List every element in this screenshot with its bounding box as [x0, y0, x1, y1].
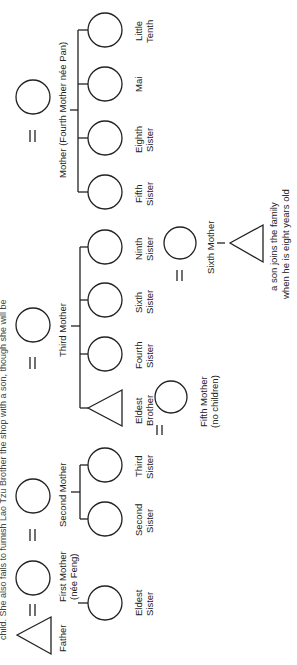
- marriage-symbol: [30, 130, 35, 142]
- sixth-sister-label: Sixth: [133, 292, 144, 313]
- marriage-symbol: [30, 357, 35, 369]
- little-tenth-label: Little: [133, 21, 144, 41]
- sibling-bracket: [71, 465, 88, 519]
- eighth-sister-circle-icon: [88, 121, 122, 155]
- marriage-symbol: [30, 529, 35, 541]
- fifth-mother-label: Fifth Mother: [198, 376, 209, 427]
- little-tenth-label-2: Tenth: [144, 20, 155, 43]
- second-sister-label: Second: [133, 504, 144, 536]
- third-sister-circle-icon: [88, 448, 122, 482]
- eldest-brother-triangle-icon: [88, 390, 122, 426]
- sibling-bracket: [71, 247, 88, 408]
- fifth-mother-circle-icon: [155, 381, 187, 413]
- marriage-symbol: [30, 604, 35, 616]
- fourth-sister-label: Fourth: [133, 342, 144, 369]
- marriage-symbol: [157, 425, 162, 435]
- mai-circle-icon: [88, 67, 122, 101]
- fourth-mother-circle-icon: [16, 80, 50, 114]
- header-caption: child. She also fails to furnish Lao Tzu…: [0, 299, 8, 640]
- first-mother-circle-icon: [16, 561, 50, 595]
- eldest-sister-circle-icon: [88, 586, 122, 620]
- fourth-sister-label-2: Sister: [144, 344, 155, 368]
- second-sister-label-2: Sister: [144, 509, 155, 533]
- fourth-sister-circle-icon: [88, 337, 122, 371]
- ninth-sister-label-2: Sister: [144, 237, 155, 261]
- fifth-sister-label: Fifth: [133, 185, 144, 203]
- ninth-sister-label: Ninth: [133, 238, 144, 260]
- third-mother-label: Third Mother: [57, 303, 68, 357]
- sixth-mother-label: Sixth Mother: [205, 221, 216, 274]
- father-triangle-icon: [17, 617, 51, 654]
- fifth-mother-note: (no children): [209, 375, 220, 428]
- first-mother-maiden: (née Feng): [68, 554, 79, 600]
- eighth-sister-label: Eighth: [133, 126, 144, 153]
- second-mother-label: Second Mother: [57, 463, 68, 527]
- third-sister-label: Third: [133, 455, 144, 477]
- first-mother-label: First Mother: [57, 551, 68, 602]
- second-sister-circle-icon: [88, 502, 122, 536]
- second-mother-circle-icon: [16, 479, 50, 513]
- mai-label: Mai: [133, 77, 144, 92]
- adopted-son-note-2: when he is eight years old: [280, 189, 291, 300]
- sixth-mother-circle-icon: [164, 227, 196, 259]
- ninth-sister-circle-icon: [88, 230, 122, 264]
- eldest-brother-label: Eldest: [133, 397, 144, 424]
- fifth-sister-label-2: Sister: [144, 182, 155, 206]
- sibling-bracket: [70, 30, 88, 192]
- sixth-sister-circle-icon: [88, 283, 122, 317]
- little-tenth-circle-icon: [88, 13, 122, 47]
- eldest-sister-label: Eldest: [133, 589, 144, 616]
- father-label: Father: [57, 625, 68, 652]
- fifth-sister-circle-icon: [88, 175, 122, 209]
- sixth-sister-label-2: Sister: [144, 290, 155, 314]
- marriage-symbol: [177, 270, 182, 281]
- eldest-sister-label-2: Sister: [144, 592, 155, 616]
- third-mother-circle-icon: [16, 308, 50, 342]
- fourth-mother-label: Mother (Fourth Mother née Pan): [57, 42, 68, 178]
- adopted-son-note: a son joins the family: [268, 202, 279, 291]
- eldest-brother-label-2: Brother: [144, 395, 155, 426]
- family-tree-diagram: child. She also fails to furnish Lao Tzu…: [0, 0, 297, 665]
- eighth-sister-label-2: Sister: [144, 128, 155, 152]
- third-sister-label-2: Sister: [144, 455, 155, 479]
- adopted-son-triangle-icon: [230, 225, 263, 262]
